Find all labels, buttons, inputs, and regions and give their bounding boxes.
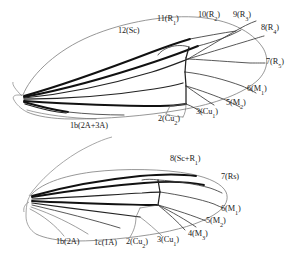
crossvein-r-upper [170,46,189,48]
hw-vein-m2 [158,205,196,227]
label-hw-3-cu1: 3(Cu1) [157,236,179,244]
label-fw-7-r5: 7(R5) [266,58,284,66]
label-hw-7-rs: 7(Rs) [221,173,239,181]
label-fw-9-r3: 9(R3) [233,11,251,19]
label-fw-11-r1: 11(R1) [157,15,179,23]
label-hw-1b-2a: 1b(2A) [56,238,79,246]
vein-m1 [185,72,256,93]
hw-vein-m1 [158,205,206,221]
label-hw-4-m3: 4(M3) [188,230,208,238]
wing-venation-figure: 12(Sc) 11(R1) 10(R2) 9(R3) 8(R4) 7(R5) 6… [0,0,305,260]
hw-cubital-wall2 [136,208,140,217]
vein-cu-stem [24,101,186,106]
label-fw-2-cu2: 2(Cu2) [158,115,180,123]
vein-r1 [24,46,198,97]
vein-2a-distal [68,112,124,115]
forewing-jugal-lobe [13,82,22,96]
label-fw-1b-2a3a: 1b(2A+3A) [70,122,108,130]
vein-r4 [188,36,264,59]
wing-drawing [0,0,305,260]
label-fw-12-sc: 12(Sc) [118,27,140,35]
vein-r3 [188,21,256,59]
crossvein-r [186,47,189,58]
hw-discal-posterior [158,192,160,205]
hindwing-group [24,137,227,241]
label-fw-10-r2: 10(R2) [198,11,220,19]
vein-cu2b [183,104,186,117]
label-hw-2-cu2: 2(Cu2) [126,238,148,246]
hw-vein-cu2 [130,217,136,237]
label-fw-8-r4: 8(R4) [261,24,279,32]
vein-r2-to-margin [198,30,241,46]
label-hw-8-scr1: 8(Sc+R1) [170,155,201,163]
label-hw-5-m2: 5(M2) [206,217,226,225]
hw-vein-2a [31,207,88,234]
hw-vein-m-stem [32,201,158,205]
vein-r5 [188,59,265,63]
label-hw-1c-1a: 1c(1A) [94,239,117,247]
label-fw-6-m1: 6(M1) [247,85,267,93]
vein-m3 [186,86,214,105]
label-fw-3-cu1: 3(Cu1) [196,108,218,116]
cubital-cell-wall2 [166,106,170,114]
hw-vein-r-to-margin [160,192,223,208]
hw-discal-top [142,179,158,180]
hw-vein-cu1 [140,217,162,236]
label-hw-6-m1: 6(M1) [221,205,241,213]
discal-cell-posterior [185,72,186,86]
label-fw-5-m2: 5(M2) [226,99,246,107]
